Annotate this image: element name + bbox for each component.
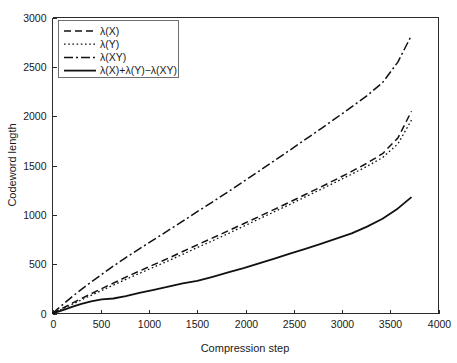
legend-label-4: λ(X)+λ(Y)−λ(XY) xyxy=(100,64,177,76)
chart-figure: 05001000150020002500300035004000 0500100… xyxy=(0,0,457,363)
y-tick-label: 2000 xyxy=(23,110,47,122)
x-tick-label: 3500 xyxy=(379,318,403,330)
x-tick-label: 1500 xyxy=(186,318,210,330)
y-tick-label: 3000 xyxy=(23,12,47,24)
x-tick-label: 2000 xyxy=(235,318,259,330)
x-tick-label: 0 xyxy=(51,318,57,330)
x-tick-label: 1000 xyxy=(138,318,162,330)
chart-canvas: 05001000150020002500300035004000 0500100… xyxy=(0,0,457,363)
y-axis-title: Codeword length xyxy=(6,123,18,206)
legend-label-1: λ(X) xyxy=(100,25,119,37)
y-tick-label: 1500 xyxy=(23,160,47,172)
x-tick-label: 2500 xyxy=(283,318,307,330)
legend-label-2: λ(Y) xyxy=(100,38,119,50)
x-tick-label: 500 xyxy=(93,318,111,330)
x-tick-label: 3000 xyxy=(331,318,355,330)
y-tick-label: 1000 xyxy=(23,209,47,221)
y-tick-label: 2500 xyxy=(23,61,47,73)
chart-legend: λ(X)λ(Y)λ(XY)λ(X)+λ(Y)−λ(XY) xyxy=(59,21,179,78)
legend-label-3: λ(XY) xyxy=(100,51,126,63)
x-tick-label: 4000 xyxy=(428,318,452,330)
x-axis-title: Compression step xyxy=(201,342,290,354)
y-tick-label: 500 xyxy=(29,258,47,270)
y-tick-label: 0 xyxy=(41,308,47,320)
